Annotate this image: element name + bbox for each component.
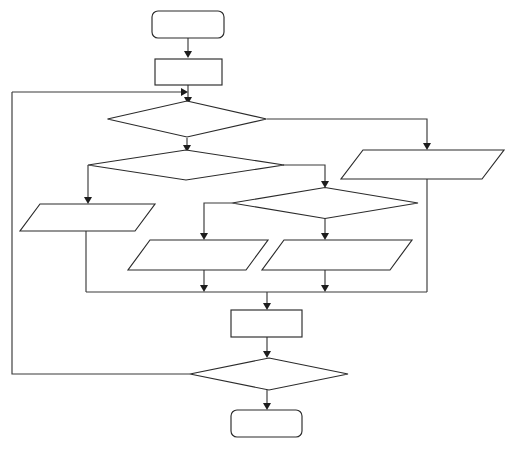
process-initialize[interactable] — [155, 59, 222, 85]
io-mid-left-parallelogram[interactable] — [128, 240, 268, 270]
edge-io-mid-right-to-bus — [321, 270, 329, 292]
decision-tertiary[interactable] — [232, 188, 418, 219]
decision-loop-back[interactable] — [190, 358, 348, 390]
io-mid-right-parallelogram-outline[interactable] — [262, 240, 412, 270]
edge-io-mid-left-to-bus — [200, 270, 208, 292]
edge-decision1-to-io-right-line — [267, 119, 427, 146]
edge-decision3-to-io-mid-left-line — [204, 203, 232, 236]
process-merge-outline[interactable] — [231, 310, 302, 337]
edge-decision1-to-io-right-arrowhead — [423, 143, 431, 150]
edge-decision3-to-io-mid-right-arrowhead — [321, 233, 329, 240]
io-mid-right-parallelogram[interactable] — [262, 240, 412, 270]
edge-io-mid-right-to-bus-arrowhead — [321, 285, 329, 292]
decision-primary[interactable] — [108, 101, 267, 137]
edge-loopback-vertical — [12, 92, 190, 374]
edge-loopback-to-decision1 — [12, 88, 188, 96]
decision-tertiary-outline[interactable] — [232, 188, 418, 219]
io-right-parallelogram[interactable] — [341, 150, 504, 179]
flowchart-canvas — [0, 0, 518, 449]
edge-decision-loop-to-end-arrowhead — [263, 403, 271, 410]
nodes-layer — [20, 11, 504, 437]
edge-start-to-init — [184, 38, 192, 58]
edge-merge-to-decision-loop-arrowhead — [263, 351, 271, 358]
edge-decision1-to-io-right — [267, 119, 431, 150]
io-right-parallelogram-outline[interactable] — [341, 150, 504, 179]
edge-loopback-vertical-line — [12, 92, 190, 374]
edge-merge-to-decision-loop — [263, 337, 271, 358]
decision-secondary-outline[interactable] — [88, 150, 284, 180]
edge-decision3-to-io-mid-left-arrowhead — [200, 233, 208, 240]
edge-io-mid-left-to-bus-arrowhead — [200, 285, 208, 292]
decision-secondary[interactable] — [88, 150, 284, 180]
end-terminal-outline[interactable] — [231, 410, 302, 437]
edge-decision2-to-io-left — [84, 165, 92, 204]
edge-bus-to-process-merge-arrowhead — [263, 303, 271, 310]
edge-start-to-init-arrowhead — [184, 51, 192, 58]
edge-decision3-to-io-mid-right — [321, 218, 329, 240]
edge-decision2-to-io-left-arrowhead — [84, 197, 92, 204]
decision-primary-outline[interactable] — [108, 101, 267, 137]
edge-decision2-to-decision3-line — [283, 165, 325, 184]
edge-decision3-to-io-mid-left — [200, 203, 232, 240]
edge-decision2-to-decision3 — [283, 165, 329, 188]
edge-decision-loop-to-end — [263, 390, 271, 410]
edge-bus-to-process-merge — [263, 292, 271, 310]
start-terminal[interactable] — [152, 11, 224, 38]
process-initialize-outline[interactable] — [155, 59, 222, 85]
end-terminal[interactable] — [231, 410, 302, 437]
io-left-parallelogram-outline[interactable] — [20, 204, 155, 231]
process-merge[interactable] — [231, 310, 302, 337]
decision-loop-back-outline[interactable] — [190, 358, 348, 390]
start-terminal-outline[interactable] — [152, 11, 224, 38]
io-left-parallelogram[interactable] — [20, 204, 155, 231]
flowchart-svg — [0, 0, 518, 449]
edge-loopback-to-decision1-arrowhead — [181, 88, 188, 96]
io-mid-left-parallelogram-outline[interactable] — [128, 240, 268, 270]
